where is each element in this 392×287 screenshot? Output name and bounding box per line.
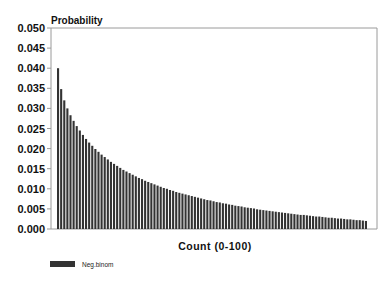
bar xyxy=(272,211,274,229)
bar xyxy=(296,215,298,229)
bar xyxy=(185,194,187,229)
bar xyxy=(222,203,224,229)
bar xyxy=(73,121,75,229)
bar xyxy=(278,212,280,229)
bar xyxy=(138,178,140,229)
bar xyxy=(94,149,96,229)
bar xyxy=(250,208,252,229)
bar xyxy=(284,213,286,229)
bar xyxy=(178,193,180,229)
bar xyxy=(265,211,267,229)
legend-swatch xyxy=(50,261,75,267)
bar xyxy=(194,197,196,229)
bar xyxy=(97,152,99,229)
bar xyxy=(144,181,146,229)
y-tick-label: 0.035 xyxy=(17,82,45,94)
bar xyxy=(82,135,84,229)
y-axis: 0.0000.0050.0100.0150.0200.0250.0300.035… xyxy=(17,22,51,235)
bar xyxy=(334,218,336,229)
bar xyxy=(197,198,199,229)
bar xyxy=(169,190,171,229)
bar xyxy=(346,219,348,229)
bar xyxy=(275,212,277,229)
bar xyxy=(306,215,308,229)
bar xyxy=(356,220,358,229)
bar xyxy=(122,170,124,229)
bar xyxy=(160,187,162,229)
bar xyxy=(244,207,246,229)
y-tick-label: 0.010 xyxy=(17,183,45,195)
bar xyxy=(340,219,342,229)
bar xyxy=(300,215,302,229)
bar xyxy=(293,214,295,229)
bar xyxy=(331,218,333,229)
bar xyxy=(359,220,361,229)
bar xyxy=(337,219,339,229)
bar xyxy=(324,217,326,229)
bar xyxy=(129,173,131,229)
bar xyxy=(247,208,249,229)
bar xyxy=(113,164,115,229)
bar xyxy=(66,108,68,229)
bar xyxy=(79,131,81,229)
bar xyxy=(135,176,137,229)
bar xyxy=(365,221,367,229)
bar xyxy=(349,219,351,229)
bar xyxy=(119,168,121,229)
bar xyxy=(188,195,190,229)
bar xyxy=(309,216,311,229)
bar-series-neg-binom xyxy=(57,68,367,229)
bar xyxy=(281,213,283,229)
bar xyxy=(101,155,103,229)
bar xyxy=(107,159,109,229)
bar xyxy=(91,146,93,229)
bar xyxy=(209,200,211,229)
bar xyxy=(191,196,193,229)
bar xyxy=(362,221,364,229)
legend: Neg.binom xyxy=(50,261,113,269)
bar xyxy=(328,218,330,229)
bar xyxy=(200,198,202,229)
y-tick-label: 0.050 xyxy=(17,22,45,34)
bar xyxy=(256,209,258,229)
y-tick-label: 0.030 xyxy=(17,102,45,114)
bar xyxy=(203,199,205,229)
bar xyxy=(88,143,90,229)
y-tick-label: 0.000 xyxy=(17,223,45,235)
bar xyxy=(172,191,174,229)
bar xyxy=(240,206,242,229)
bar xyxy=(76,126,78,229)
plot-frame xyxy=(51,28,377,229)
bar xyxy=(231,205,233,229)
bar xyxy=(85,139,87,229)
bar xyxy=(63,100,65,229)
bar xyxy=(147,182,149,229)
y-tick-label: 0.040 xyxy=(17,62,45,74)
bar xyxy=(153,184,155,229)
bar xyxy=(228,204,230,229)
legend-label: Neg.binom xyxy=(82,261,113,269)
bar xyxy=(69,115,71,229)
bar xyxy=(352,220,354,229)
bar xyxy=(290,214,292,229)
y-tick-label: 0.025 xyxy=(17,123,45,135)
y-tick-label: 0.020 xyxy=(17,143,45,155)
bar xyxy=(253,209,255,230)
bar xyxy=(312,216,314,229)
bar xyxy=(166,189,168,229)
bar xyxy=(318,217,320,229)
bar xyxy=(287,213,289,229)
bar xyxy=(175,192,177,229)
bar xyxy=(132,175,134,229)
bar xyxy=(303,215,305,229)
bar xyxy=(104,157,106,229)
bar xyxy=(216,202,218,229)
bar xyxy=(125,172,127,229)
bar xyxy=(150,183,152,229)
y-axis-label: Probability xyxy=(51,15,103,26)
bar xyxy=(237,206,239,229)
bar xyxy=(116,166,118,229)
bar xyxy=(268,211,270,229)
bar xyxy=(225,204,227,229)
y-tick-label: 0.015 xyxy=(17,163,45,175)
